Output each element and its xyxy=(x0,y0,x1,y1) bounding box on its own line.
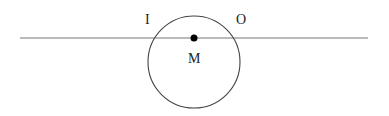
label-i: I xyxy=(145,12,150,27)
label-o: O xyxy=(236,12,246,27)
diagram-canvas: I O M xyxy=(0,0,389,116)
point-m xyxy=(191,35,198,42)
label-m: M xyxy=(188,51,201,66)
